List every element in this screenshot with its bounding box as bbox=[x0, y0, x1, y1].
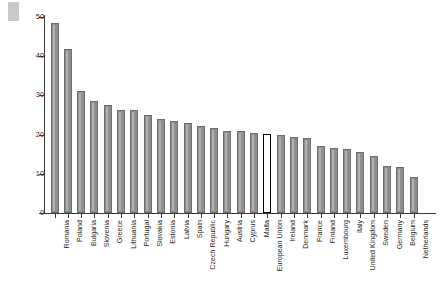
x-tick-european-union bbox=[267, 214, 268, 218]
bar-czech-republic bbox=[197, 126, 205, 213]
x-tick-malta bbox=[254, 214, 255, 218]
x-tick-estonia bbox=[161, 214, 162, 218]
x-tick-greece bbox=[108, 214, 109, 218]
bar-belgium bbox=[396, 167, 404, 213]
bar-lithuania bbox=[117, 110, 125, 213]
bar-netherlands bbox=[410, 177, 418, 213]
bar-malta bbox=[250, 133, 258, 213]
bar-slovenia bbox=[90, 101, 98, 213]
x-tick-slovenia bbox=[94, 214, 95, 218]
x-tick-cyprus bbox=[241, 214, 242, 218]
x-tick-poland bbox=[68, 214, 69, 218]
bar-greece bbox=[104, 105, 112, 213]
bar-portugal bbox=[130, 110, 138, 213]
bad-jobs-bar-chart: Percentage of employment in bad jobs (%)… bbox=[0, 0, 440, 296]
x-axis-label-latvia: Latvia bbox=[183, 220, 192, 296]
bar-sweden bbox=[370, 156, 378, 213]
x-axis-label-denmark: Denmark bbox=[302, 220, 311, 296]
x-axis-label-hungary: Hungary bbox=[223, 220, 232, 296]
y-tick-label-20: 20 bbox=[14, 131, 44, 139]
bar-cyprus bbox=[237, 131, 245, 213]
bar-luxembourg bbox=[330, 148, 338, 213]
x-axis-label-netherlands: Netherlands bbox=[422, 220, 431, 296]
bar-poland bbox=[64, 49, 72, 213]
x-tick-sweden bbox=[374, 214, 375, 218]
x-axis-label-united-kingdom: United Kingdom bbox=[369, 220, 378, 296]
bar-finland bbox=[317, 146, 325, 213]
x-tick-finland bbox=[321, 214, 322, 218]
x-tick-romania bbox=[55, 214, 56, 218]
bar-bulgaria bbox=[77, 91, 85, 213]
x-axis-label-slovenia: Slovenia bbox=[103, 220, 112, 296]
bar-slovakia bbox=[144, 115, 152, 213]
x-axis-label-ireland: Ireland bbox=[289, 220, 298, 296]
bar-germany bbox=[383, 166, 391, 213]
x-axis-label-italy: Italy bbox=[356, 220, 365, 296]
x-axis-label-bulgaria: Bulgaria bbox=[90, 220, 99, 296]
x-tick-netherlands bbox=[414, 214, 415, 218]
x-tick-slovakia bbox=[148, 214, 149, 218]
x-tick-ireland bbox=[281, 214, 282, 218]
x-axis-label-germany: Germany bbox=[396, 220, 405, 296]
y-tick-label-50: 50 bbox=[14, 13, 44, 21]
x-axis-label-poland: Poland bbox=[76, 220, 85, 296]
x-axis-label-finland: Finland bbox=[329, 220, 338, 296]
x-axis-label-romania: Romania bbox=[63, 220, 72, 296]
bar-ireland bbox=[277, 135, 285, 213]
x-tick-italy bbox=[347, 214, 348, 218]
x-tick-czech-republic bbox=[201, 214, 202, 218]
x-tick-united-kingdom bbox=[360, 214, 361, 218]
x-axis-label-luxembourg: Luxembourg bbox=[342, 220, 351, 296]
x-axis-label-greece: Greece bbox=[116, 220, 125, 296]
bar-hungary bbox=[210, 128, 218, 213]
x-axis-label-sweden: Sweden bbox=[382, 220, 391, 296]
x-axis-label-portugal: Portugal bbox=[143, 220, 152, 296]
bar-latvia bbox=[170, 121, 178, 213]
y-tick-label-30: 30 bbox=[14, 91, 44, 99]
x-axis-label-spain: Spain bbox=[196, 220, 205, 296]
y-tick-label-10: 10 bbox=[14, 170, 44, 178]
bar-denmark bbox=[290, 137, 298, 213]
x-tick-france bbox=[307, 214, 308, 218]
y-tick-label-0: 0 bbox=[14, 209, 44, 217]
y-tick-label-40: 40 bbox=[14, 52, 44, 60]
x-tick-denmark bbox=[294, 214, 295, 218]
x-axis-label-czech-republic: Czech Republic bbox=[209, 220, 218, 296]
bar-european-union bbox=[263, 134, 271, 213]
x-axis-label-estonia: Estonia bbox=[169, 220, 178, 296]
bar-austria bbox=[223, 131, 231, 213]
x-tick-latvia bbox=[174, 214, 175, 218]
x-tick-portugal bbox=[134, 214, 135, 218]
x-axis-label-malta: Malta bbox=[263, 220, 272, 296]
y-axis-ticks: 01020304050 bbox=[0, 0, 44, 230]
bar-estonia bbox=[157, 119, 165, 213]
x-axis-label-cyprus: Cyprus bbox=[249, 220, 258, 296]
x-axis-label-belgium: Belgium bbox=[409, 220, 418, 296]
plot-area bbox=[44, 17, 436, 213]
x-tick-bulgaria bbox=[81, 214, 82, 218]
bar-france bbox=[303, 138, 311, 213]
x-axis-label-european-union: European Union bbox=[276, 220, 285, 296]
bar-italy bbox=[343, 149, 351, 213]
x-tick-luxembourg bbox=[334, 214, 335, 218]
x-axis-label-lithuania: Lithuania bbox=[130, 220, 139, 296]
bar-spain bbox=[184, 123, 192, 213]
x-tick-austria bbox=[227, 214, 228, 218]
x-tick-lithuania bbox=[121, 214, 122, 218]
x-tick-belgium bbox=[400, 214, 401, 218]
x-tick-germany bbox=[387, 214, 388, 218]
bar-romania bbox=[51, 23, 59, 213]
bar-united-kingdom bbox=[356, 152, 364, 213]
x-axis-label-austria: Austria bbox=[236, 220, 245, 296]
x-tick-spain bbox=[188, 214, 189, 218]
x-axis-label-slovakia: Slovakia bbox=[156, 220, 165, 296]
x-tick-hungary bbox=[214, 214, 215, 218]
x-axis-label-france: France bbox=[316, 220, 325, 296]
